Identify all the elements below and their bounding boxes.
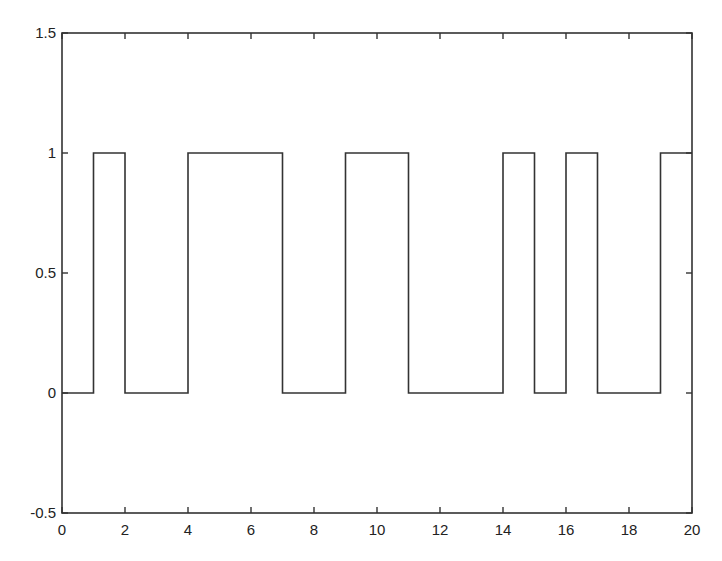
x-tick-label: 14 xyxy=(495,521,512,538)
y-tick-label: 1 xyxy=(48,144,56,161)
x-tick-label: 18 xyxy=(621,521,638,538)
y-tick-label: 0 xyxy=(48,384,56,401)
x-tick-label: 8 xyxy=(310,521,318,538)
x-tick-label: 12 xyxy=(432,521,449,538)
series-line-signal xyxy=(62,153,692,393)
x-tick-label: 10 xyxy=(369,521,386,538)
signal-line xyxy=(62,153,692,393)
y-axis-tick-labels: -0.500.511.5 xyxy=(30,24,56,521)
x-tick-label: 0 xyxy=(58,521,66,538)
x-axis-tick-labels: 02468101214161820 xyxy=(58,521,701,538)
x-tick-label: 6 xyxy=(247,521,255,538)
y-tick-label: -0.5 xyxy=(30,504,56,521)
y-tick-label: 1.5 xyxy=(35,24,56,41)
x-tick-label: 20 xyxy=(684,521,701,538)
step-chart: 02468101214161820 -0.500.511.5 xyxy=(0,0,722,561)
x-tick-label: 16 xyxy=(558,521,575,538)
y-tick-label: 0.5 xyxy=(35,264,56,281)
x-tick-label: 4 xyxy=(184,521,192,538)
x-tick-label: 2 xyxy=(121,521,129,538)
